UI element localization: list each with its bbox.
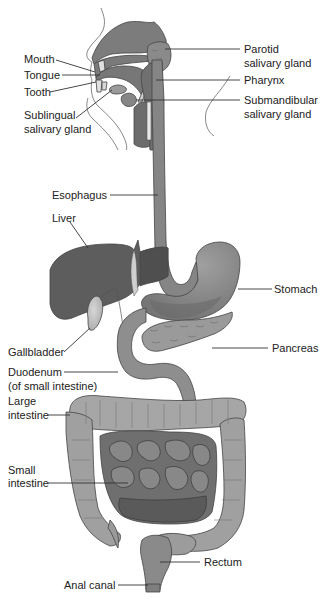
- sublingual-salivary-gland: [109, 85, 126, 94]
- label-liver: Liver: [52, 212, 76, 224]
- label-rectum: Rectum: [204, 556, 242, 568]
- label-stomach: Stomach: [274, 283, 317, 295]
- label-duodenum-line1: Duodenum: [8, 366, 62, 378]
- label-submandibular-line2: salivary gland: [244, 108, 311, 120]
- label-parotid-line2: salivary gland: [244, 57, 311, 69]
- rectum: [141, 535, 172, 590]
- anal-canal: [146, 584, 160, 592]
- submandibular-salivary-gland: [121, 93, 136, 106]
- label-tooth: Tooth: [24, 86, 51, 98]
- label-large-intestine-line1: Large: [8, 395, 36, 407]
- label-tongue: Tongue: [24, 69, 60, 81]
- label-sublingual-line2: salivary gland: [24, 123, 91, 135]
- small-intestine: [100, 431, 217, 524]
- label-sublingual-line1: Sublingual: [24, 109, 75, 121]
- label-pancreas: Pancreas: [272, 342, 319, 354]
- label-parotid-line1: Parotid: [244, 43, 279, 55]
- lower-tooth: [96, 80, 102, 92]
- label-gallbladder: Gallbladder: [8, 346, 65, 358]
- label-mouth: Mouth: [24, 53, 55, 65]
- trachea-inner: [147, 102, 151, 140]
- label-submandibular-line1: Submandibular: [244, 94, 318, 106]
- label-small-intestine-line2: intestine: [8, 477, 49, 489]
- label-large-intestine-line2: intestine: [8, 409, 49, 421]
- lower-tooth-2: [102, 82, 107, 90]
- label-duodenum-line2: (of small intestine): [8, 380, 97, 392]
- digestive-system-diagram: Mouth Tongue Tooth Sublingual salivary g…: [0, 0, 325, 603]
- label-anal-canal: Anal canal: [64, 579, 115, 591]
- label-small-intestine-line1: Small: [8, 464, 36, 476]
- label-esophagus: Esophagus: [52, 189, 108, 201]
- label-pharynx: Pharynx: [244, 74, 285, 86]
